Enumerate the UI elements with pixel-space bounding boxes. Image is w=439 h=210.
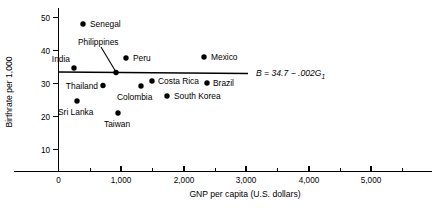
data-point[interactable]: [80, 21, 85, 26]
data-point-labels: Senegal India Philippines Peru Mexico Th…: [52, 19, 238, 129]
x-tick-label: 4,000: [299, 176, 320, 185]
point-label-colombia: Colombia: [117, 92, 153, 102]
point-label-taiwan: Taiwan: [104, 119, 130, 129]
x-axis-title: GNP per capita (U.S. dollars): [189, 189, 300, 199]
point-label-peru: Peru: [133, 53, 151, 63]
data-point[interactable]: [138, 83, 143, 88]
point-label-sri-lanka: Sri Lanka: [58, 107, 94, 117]
y-axis-ticks: [53, 18, 59, 150]
y-tick-label: 40: [41, 47, 51, 56]
regression-equation: B = 34.7 − .002G1: [256, 68, 325, 80]
point-label-india: India: [52, 54, 71, 64]
regression-equation-text: B = 34.7 − .002G: [256, 68, 322, 78]
point-label-south-korea: South Korea: [174, 91, 221, 101]
data-point[interactable]: [201, 54, 206, 59]
data-point[interactable]: [123, 55, 128, 60]
data-point[interactable]: [113, 70, 118, 75]
x-tick-label: 2,000: [174, 176, 195, 185]
point-label-philippines: Philippines: [78, 37, 119, 47]
data-point[interactable]: [100, 83, 105, 88]
point-label-senegal: Senegal: [90, 19, 121, 29]
regression-line: [59, 72, 249, 74]
data-point[interactable]: [74, 98, 79, 103]
point-label-brazil: Brazil: [213, 78, 234, 88]
x-tick-label: 1,000: [111, 176, 132, 185]
point-label-costa-rica: Costa Rica: [158, 76, 199, 86]
y-axis-title: Birthrate per 1,000: [4, 56, 14, 127]
x-tick-label: 3,000: [236, 176, 257, 185]
data-point[interactable]: [204, 80, 209, 85]
point-label-mexico: Mexico: [211, 52, 238, 62]
data-point[interactable]: [115, 110, 120, 115]
x-tick-label: 0: [56, 176, 61, 185]
regression-equation-subscript: 1: [321, 73, 325, 80]
point-label-thailand: Thailand: [66, 81, 98, 91]
data-point[interactable]: [149, 78, 154, 83]
y-axis-tick-labels: 50 40 30 20 10: [41, 14, 51, 155]
data-point[interactable]: [164, 93, 169, 98]
data-point[interactable]: [71, 65, 76, 70]
y-tick-label: 10: [41, 146, 51, 155]
y-tick-label: 50: [41, 14, 51, 23]
y-tick-label: 30: [41, 80, 51, 89]
y-tick-label: 20: [41, 113, 51, 122]
philippines-leader-line: [101, 47, 116, 72]
x-axis-tick-labels: 0 1,000 2,000 3,000 4,000 5,000: [56, 176, 381, 185]
x-tick-label: 5,000: [361, 176, 382, 185]
chart-canvas: 50 40 30 20 10 0 1,000 2,0: [0, 0, 439, 210]
scatter-chart-figure: 50 40 30 20 10 0 1,000 2,0: [0, 0, 439, 210]
